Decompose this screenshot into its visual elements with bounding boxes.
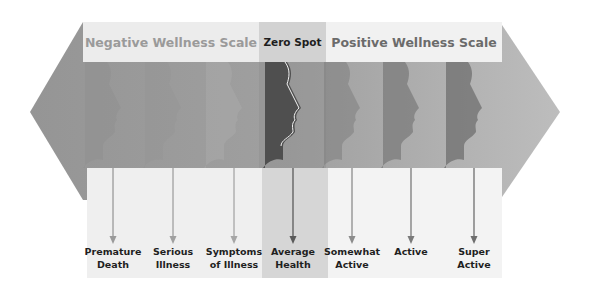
stage-label: SuperActive [438,245,510,271]
stage-arrow [349,168,356,244]
stage-arrow [290,168,297,244]
stage-arrow [170,168,177,244]
stage-label: Active [375,245,447,258]
stage-arrow [408,168,415,244]
wellness-diagram: Negative Wellness Scale Zero Spot Positi… [0,0,590,298]
stage-arrow [471,168,478,244]
stage-arrow [231,168,238,244]
stage-arrow [110,168,117,244]
